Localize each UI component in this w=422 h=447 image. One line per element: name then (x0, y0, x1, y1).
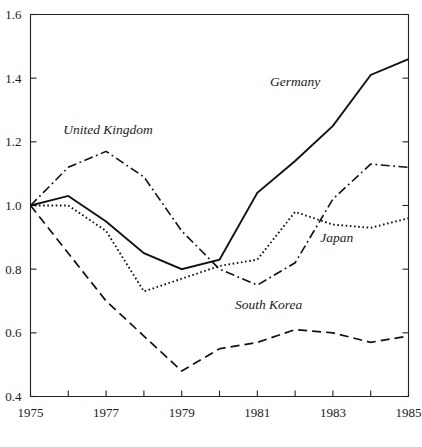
x-tick-label: 1977 (93, 405, 120, 420)
y-tick-label: 0.4 (5, 389, 22, 404)
y-tick-label: 1.6 (5, 7, 22, 22)
chart-background (0, 0, 422, 447)
chart-figure: 0.40.60.81.01.21.41.6 197519771979198119… (0, 0, 422, 447)
series-label-south-korea: South Korea (235, 297, 303, 312)
x-tick-label: 1975 (18, 405, 44, 420)
series-label-united-kingdom: United Kingdom (63, 122, 153, 137)
x-tick-label: 1983 (320, 405, 346, 420)
x-tick-label: 1979 (169, 405, 195, 420)
series-label-germany: Germany (270, 74, 320, 89)
x-tick-label: 1985 (396, 405, 422, 420)
line-chart-canvas: 0.40.60.81.01.21.41.6 197519771979198119… (0, 0, 422, 447)
series-label-japan: Japan (320, 230, 353, 245)
y-tick-label: 1.0 (5, 198, 21, 213)
y-tick-label: 1.2 (5, 134, 21, 149)
y-tick-label: 0.8 (5, 262, 21, 277)
x-tick-label: 1981 (244, 405, 270, 420)
y-tick-label: 1.4 (5, 71, 22, 86)
y-tick-label: 0.6 (5, 325, 22, 340)
